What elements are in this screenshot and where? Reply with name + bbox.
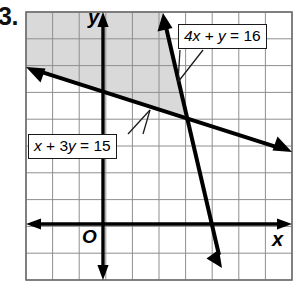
equation-label-x-plus-3y-15: x + 3y = 15	[28, 134, 117, 159]
graph-figure: 3.	[0, 0, 301, 288]
y-axis-label: y	[88, 6, 99, 29]
origin-label: O	[82, 226, 97, 248]
equation-text-bottom: x + 3y = 15	[34, 137, 111, 154]
x-axis-label: x	[272, 228, 283, 251]
equation-label-4x-plus-y-16: 4x + y = 16	[178, 24, 267, 49]
equation-text-top: 4x + y = 16	[184, 27, 261, 44]
